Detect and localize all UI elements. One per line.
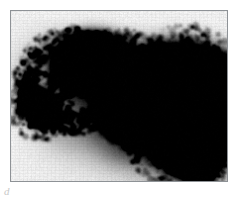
figure-root: d xyxy=(0,0,247,199)
scintigraphy-image-frame xyxy=(10,10,228,182)
scintigraphy-scan-canvas xyxy=(11,11,227,181)
figure-panel-label: d xyxy=(4,185,28,198)
